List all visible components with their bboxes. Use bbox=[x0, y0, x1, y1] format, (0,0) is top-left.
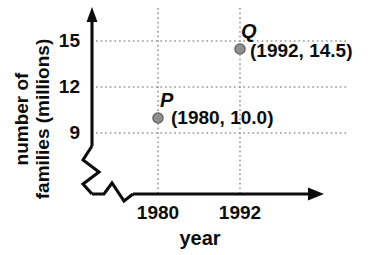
data-point-Q-coordinates: (1992, 14.5) bbox=[250, 41, 352, 60]
y-axis-title-line-2: families (millions) bbox=[32, 24, 53, 214]
data-point-Q-name: Q bbox=[241, 21, 257, 41]
data-point-P-coordinates: (1980, 10.0) bbox=[171, 108, 273, 127]
x-axis-break-zigzag-icon bbox=[92, 183, 133, 201]
x-axis-title: year bbox=[140, 228, 260, 248]
data-point-Q-marker[interactable] bbox=[235, 44, 245, 54]
y-axis-title: number of families (millions) bbox=[11, 24, 65, 214]
x-tick-label-1980: 1980 bbox=[126, 203, 190, 222]
y-axis-arrowhead-icon bbox=[87, 7, 98, 22]
chart-figure: 15 12 9 1980 1992 year number of familie… bbox=[0, 0, 370, 255]
y-axis-break-zigzag-icon bbox=[83, 146, 99, 194]
data-point-P-marker[interactable] bbox=[153, 113, 163, 123]
x-tick-label-1992: 1992 bbox=[208, 203, 272, 222]
y-axis-title-line-1: number of bbox=[11, 24, 32, 214]
x-axis-arrowhead-icon bbox=[308, 188, 324, 201]
